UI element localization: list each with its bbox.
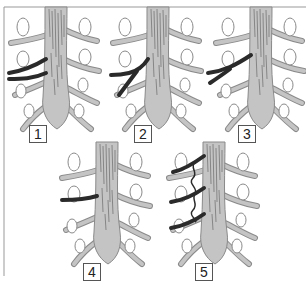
- label-text: 1: [34, 126, 42, 142]
- label-text: 2: [139, 126, 147, 142]
- panel-2: [111, 7, 201, 129]
- panel-label-5: 5: [195, 263, 213, 281]
- label-text: 3: [243, 126, 251, 142]
- panel-4: [62, 142, 150, 264]
- panel-label-1: 1: [29, 125, 47, 143]
- diagram-canvas: 1 2 3 4 5: [0, 0, 306, 283]
- label-text: 4: [88, 264, 96, 280]
- panel-label-3: 3: [238, 125, 256, 143]
- panel-3: [208, 7, 304, 129]
- panel-1: [9, 7, 99, 129]
- panel-label-2: 2: [134, 125, 152, 143]
- panel-5: [169, 142, 257, 264]
- label-text: 5: [200, 264, 208, 280]
- panel-label-4: 4: [83, 263, 101, 281]
